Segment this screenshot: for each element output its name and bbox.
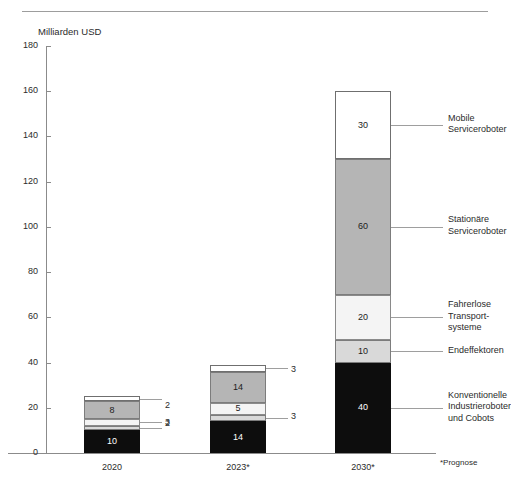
bar-segment[interactable]: 10 (335, 340, 391, 363)
y-tick-label-160: 160 (8, 86, 38, 95)
bar-segment[interactable]: 14 (210, 421, 266, 453)
bar-2020[interactable]: 108 (84, 46, 140, 453)
y-tick-label-100: 100 (8, 222, 38, 231)
callout-leader-line (140, 399, 162, 400)
bar-2023[interactable]: 14514 (210, 46, 266, 453)
legend-item-1[interactable]: Endeffektoren (448, 345, 504, 357)
y-tick-label-0: 0 (8, 448, 38, 457)
bar-segment[interactable] (84, 426, 140, 431)
y-axis-line (46, 46, 47, 454)
bar-segment[interactable]: 60 (335, 159, 391, 295)
bar-segment[interactable] (84, 419, 140, 426)
bar-value-label: 60 (358, 222, 368, 231)
bar-segment[interactable]: 20 (335, 295, 391, 340)
legend-leader-line (391, 227, 443, 228)
bar-value-label-outside: 3 (165, 417, 170, 427)
y-tick-40 (46, 363, 51, 364)
legend-leader-line (391, 351, 443, 352)
bar-2030[interactable]: 4010206030 (335, 46, 391, 453)
x-axis-label-2023: 2023* (193, 462, 283, 472)
bar-value-label: 5 (235, 404, 240, 413)
bar-segment[interactable] (84, 396, 140, 401)
footnote-prognose: *Prognose (440, 458, 477, 467)
y-tick-100 (46, 227, 51, 228)
bar-segment[interactable] (210, 415, 266, 422)
legend-item-0[interactable]: Konventionelle Industrieroboter und Cobo… (448, 390, 511, 425)
bar-value-label-outside: 2 (165, 400, 170, 410)
callout-leader-line (266, 368, 288, 369)
bar-value-label: 10 (107, 437, 117, 446)
y-tick-140 (46, 136, 51, 137)
legend-leader-line (391, 408, 443, 409)
caption-cut-text (0, 481, 509, 489)
y-tick-label-40: 40 (8, 358, 38, 367)
x-axis-label-2020: 2020 (67, 462, 157, 472)
header-divider (22, 11, 488, 12)
y-tick-label-60: 60 (8, 312, 38, 321)
y-axis-title: Milliarden USD (38, 26, 101, 37)
y-tick-60 (46, 317, 51, 318)
bar-segment[interactable] (210, 365, 266, 372)
y-tick-0 (46, 453, 51, 454)
y-tick-120 (46, 182, 51, 183)
y-tick-label-120: 120 (8, 177, 38, 186)
bar-value-label: 30 (358, 121, 368, 130)
y-tick-20 (46, 408, 51, 409)
bar-value-label-outside: 3 (291, 411, 296, 421)
y-tick-label-180: 180 (8, 41, 38, 50)
bar-value-label: 8 (109, 406, 114, 415)
y-tick-label-80: 80 (8, 267, 38, 276)
bar-segment[interactable]: 5 (210, 403, 266, 414)
y-tick-label-20: 20 (8, 403, 38, 412)
y-tick-label-140: 140 (8, 131, 38, 140)
bar-segment[interactable]: 30 (335, 91, 391, 159)
callout-leader-line (140, 428, 162, 429)
legend-item-3[interactable]: Stationäre Serviceroboter (448, 214, 507, 237)
bar-value-label: 10 (358, 347, 368, 356)
y-tick-160 (46, 91, 51, 92)
legend-leader-line (391, 317, 443, 318)
bar-segment[interactable]: 8 (84, 401, 140, 419)
bar-value-label: 14 (233, 383, 243, 392)
bar-value-label: 20 (358, 313, 368, 322)
bar-segment[interactable]: 10 (84, 430, 140, 453)
bar-value-label: 14 (233, 433, 243, 442)
callout-leader-line (140, 422, 162, 423)
legend-leader-line (391, 125, 443, 126)
y-tick-80 (46, 272, 51, 273)
x-axis-line (8, 453, 436, 454)
callout-leader-line (266, 418, 288, 419)
x-axis-label-2030: 2030* (318, 462, 408, 472)
header-cut-text (0, 0, 509, 8)
bar-value-label: 40 (358, 403, 368, 412)
bar-value-label-outside: 3 (291, 364, 296, 374)
y-tick-180 (46, 46, 51, 47)
legend-item-4[interactable]: Mobile Serviceroboter (448, 113, 507, 136)
bar-segment[interactable]: 14 (210, 372, 266, 404)
bar-segment[interactable]: 40 (335, 363, 391, 453)
legend-item-2[interactable]: Fahrerlose Transport- systeme (448, 299, 491, 334)
